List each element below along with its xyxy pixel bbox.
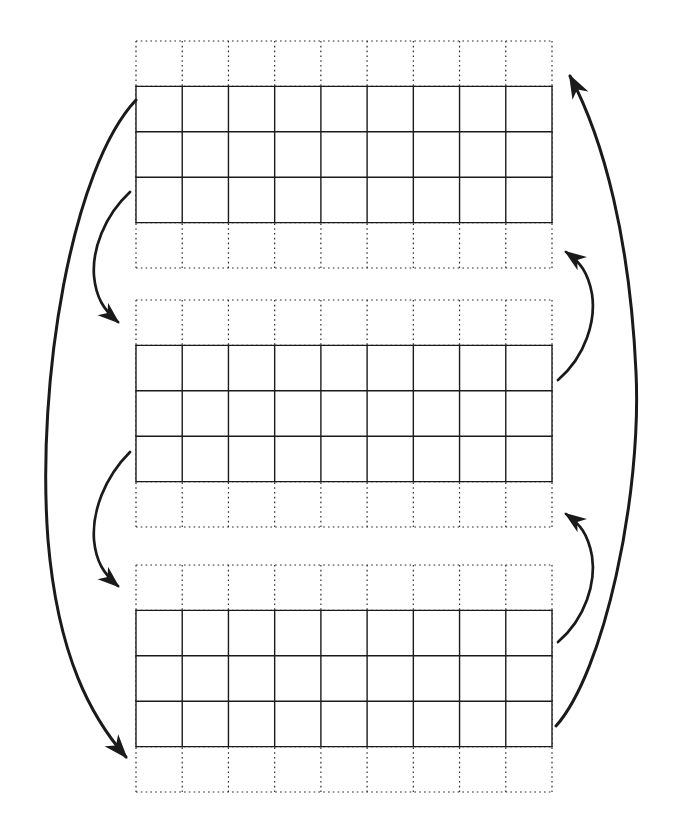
- flow-arrow: [94, 452, 130, 586]
- grid-blocks-layer: [136, 41, 552, 792]
- solid-grid-backing: [136, 345, 552, 481]
- diagram-canvas: [0, 0, 683, 824]
- flow-arrow: [558, 514, 593, 642]
- grid-block: [136, 565, 552, 792]
- grid-block: [136, 41, 552, 268]
- flow-arrow: [94, 192, 130, 322]
- diagram-svg: [0, 0, 683, 824]
- solid-grid-backing: [136, 610, 552, 746]
- flow-arrow: [558, 252, 593, 380]
- grid-block: [136, 300, 552, 527]
- flow-arrow: [556, 76, 637, 726]
- solid-grid-backing: [136, 86, 552, 222]
